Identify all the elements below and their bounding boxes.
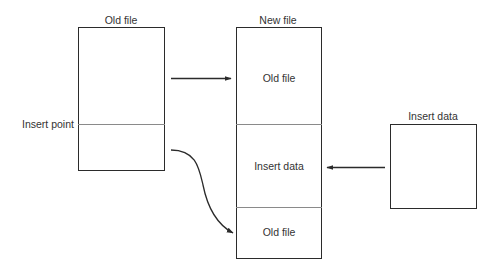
arrows-layer: [0, 0, 496, 272]
curved-arrow-icon: [171, 150, 233, 233]
